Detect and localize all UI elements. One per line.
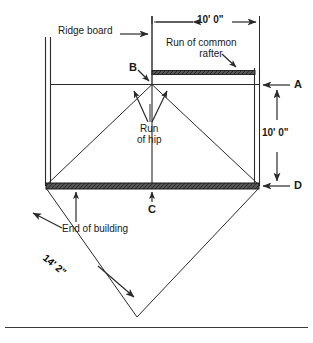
label-ridge-board: Ridge board (58, 26, 112, 37)
point-b-leader (138, 70, 149, 81)
label-run-of-hip-line2: of hip (137, 135, 161, 146)
diagram-canvas: Ridge board 10' 0" Run of common rafter … (0, 0, 313, 343)
common-rafter-member (152, 71, 255, 75)
run-of-hip-leaders (134, 91, 167, 122)
point-label-d: D (294, 180, 302, 192)
label-end-of-building: End of building (62, 224, 128, 235)
roof-framing-drawing (0, 0, 313, 343)
point-label-b: B (129, 62, 137, 74)
point-label-c: C (148, 204, 156, 216)
point-label-a: A (294, 79, 302, 91)
label-run-of-common-rafter-line2: rafter (166, 49, 237, 60)
label-run-of-common-rafter: Run of common rafter (166, 38, 237, 60)
label-run-of-hip: Run of hip (137, 124, 161, 146)
dimension-label-top-run: 10' 0" (197, 15, 224, 26)
dimension-label-right-height: 10' 0" (262, 128, 289, 139)
